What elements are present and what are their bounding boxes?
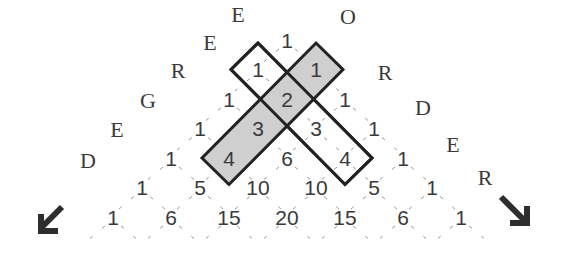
order-label-letter: D <box>415 95 431 120</box>
triangle-cell-r2-k2: 1 <box>339 88 351 111</box>
triangle-cell-r6-k3: 20 <box>275 206 298 229</box>
lattice-line <box>177 197 192 210</box>
triangle-cell-r4-k1: 4 <box>223 147 235 170</box>
lattice-line <box>206 108 221 121</box>
triangle-cell-r5-k5: 1 <box>426 176 438 199</box>
triangle-cell-r6-k4: 15 <box>333 206 356 229</box>
triangle-cell-r4-k0: 1 <box>165 147 177 170</box>
lattice-line <box>179 226 194 239</box>
triangle-cell-r0-k0: 1 <box>281 29 293 52</box>
lattice-line <box>382 138 397 151</box>
degree-label-letter: G <box>140 88 156 113</box>
lattice-line <box>177 138 192 151</box>
order-label-letter: O <box>340 4 356 29</box>
lattice-line <box>382 197 397 210</box>
triangle-cell-r6-k6: 1 <box>455 206 467 229</box>
triangle-cell-r5-k3: 10 <box>304 176 327 199</box>
triangle-cell-r4-k3: 4 <box>339 147 351 170</box>
lattice-line <box>411 167 426 180</box>
lattice-line <box>440 197 455 210</box>
lattice-line <box>148 167 163 180</box>
degree-label-letter: R <box>171 58 186 83</box>
triangle-cell-r5-k1: 5 <box>194 176 206 199</box>
lattice-line <box>90 226 105 239</box>
lattice-line <box>438 226 453 239</box>
triangle-cell-r4-k4: 1 <box>397 147 409 170</box>
lattice-line <box>380 167 395 180</box>
lattice-line <box>179 167 194 180</box>
order-label-letter: R <box>378 60 393 85</box>
triangle-cell-r5-k4: 5 <box>368 176 380 199</box>
lattice-line <box>380 226 395 239</box>
degree-arrow-icon <box>41 207 62 231</box>
triangle-cell-r6-k0: 1 <box>107 206 119 229</box>
order-label-letter: R <box>478 165 493 190</box>
lattice-line <box>324 138 339 151</box>
triangle-cell-r5-k2: 10 <box>246 176 269 199</box>
triangle-cell-r6-k2: 15 <box>217 206 240 229</box>
lattice-line <box>409 197 424 210</box>
lattice-line <box>150 197 165 210</box>
degree-label-letter: E <box>203 30 216 55</box>
triangle-cell-r6-k1: 6 <box>165 206 177 229</box>
triangle-cell-r6-k5: 6 <box>397 206 409 229</box>
triangle-cell-r1-k0: 1 <box>252 58 264 81</box>
lattice-line <box>119 197 134 210</box>
order-label-letter: E <box>446 132 459 157</box>
triangle-numbers: 111121133114641151010511615201561 <box>107 29 467 229</box>
lattice-line <box>411 226 426 239</box>
degree-label-letter: D <box>80 148 96 173</box>
triangle-cell-r1-k1: 1 <box>310 58 322 81</box>
triangle-cell-r4-k2: 6 <box>281 147 293 170</box>
triangle-cell-r3-k3: 1 <box>368 117 380 140</box>
triangle-cell-r3-k1: 3 <box>252 117 264 140</box>
triangle-cell-r2-k0: 1 <box>223 88 235 111</box>
degree-label-letter: E <box>231 2 244 27</box>
triangle-cell-r2-k1: 2 <box>281 88 293 111</box>
lattice-line <box>469 226 484 239</box>
order-arrow-icon <box>501 197 527 223</box>
degree-label-letter: E <box>110 117 123 142</box>
triangle-cell-r3-k0: 1 <box>194 117 206 140</box>
triangle-cell-r3-k2: 3 <box>310 117 322 140</box>
lattice-line <box>148 226 163 239</box>
triangle-cell-r5-k0: 1 <box>136 176 148 199</box>
lattice-line <box>121 226 136 239</box>
lattice-line <box>353 108 368 121</box>
pascal-triangle-diagram: 111121133114641151010511615201561 EERGED… <box>0 0 564 264</box>
